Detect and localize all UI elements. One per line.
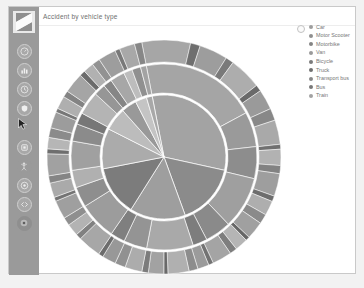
layers-icon [17, 140, 32, 155]
legend-label: Motorbike [316, 42, 340, 47]
sidebar-item-people[interactable] [14, 156, 34, 176]
sidebar-item-code[interactable] [14, 194, 34, 214]
code-icon [17, 197, 32, 212]
target-icon [17, 178, 32, 193]
sunburst-outer-slice[interactable] [47, 154, 70, 176]
content-panel: Accident by vehicle type CarMotor Scoote… [39, 7, 355, 273]
sidebar-item-settings[interactable] [14, 213, 34, 233]
legend-item[interactable]: Motorbike [309, 40, 350, 49]
legend-label: Van [316, 50, 325, 55]
legend-label: Motor Scooter [316, 33, 350, 38]
bar-chart-icon [17, 63, 32, 78]
sidebar-item-clock[interactable] [14, 79, 34, 99]
app-window: Accident by vehicle type CarMotor Scoote… [8, 6, 356, 274]
legend-item[interactable]: Train [309, 92, 350, 101]
legend-item[interactable]: Bus [309, 83, 350, 92]
sidebar-item-target[interactable] [14, 175, 34, 195]
legend-swatch [309, 51, 313, 55]
dashboard-icon [17, 44, 32, 59]
legend-swatch [309, 85, 313, 89]
sunburst-svg[interactable] [39, 25, 301, 275]
legend-item[interactable]: Motor Scooter [309, 32, 350, 41]
clock-icon [17, 82, 32, 97]
sunburst-outer-slice[interactable] [164, 252, 168, 274]
sidebar-item-dashboard[interactable] [14, 41, 34, 61]
legend-toggle-icon[interactable] [297, 25, 305, 33]
legend-swatch [309, 60, 313, 64]
legend-swatch [309, 42, 313, 46]
sidebar-item-shield[interactable] [14, 98, 34, 118]
legend-label: Transport bus [316, 76, 349, 81]
legend-swatch [309, 94, 313, 98]
legend-label: Train [316, 93, 328, 98]
people-icon [17, 159, 32, 174]
legend-swatch [309, 25, 313, 29]
legend-label: Truck [316, 68, 329, 73]
app-logo[interactable] [13, 11, 35, 33]
sidebar-item-layers[interactable] [14, 137, 34, 157]
legend-list: CarMotor ScooterMotorbikeVanBicycleTruck… [309, 23, 350, 100]
legend-label: Car [316, 25, 325, 30]
sidebar-rail [9, 7, 39, 275]
sunburst-outer-slice[interactable] [142, 40, 191, 65]
legend-item[interactable]: Van [309, 49, 350, 58]
shield-icon [17, 101, 32, 116]
legend-item[interactable]: Transport bus [309, 75, 350, 84]
sunburst-chart[interactable] [39, 25, 301, 275]
legend-swatch [309, 68, 313, 72]
legend-item[interactable]: Truck [309, 66, 350, 75]
sunburst-outer-slice[interactable] [259, 149, 281, 165]
legend-swatch [309, 77, 313, 81]
legend-swatch [309, 34, 313, 38]
gear-icon [17, 216, 32, 231]
legend-label: Bicycle [316, 59, 333, 64]
mouse-cursor [16, 117, 30, 131]
page-title: Accident by vehicle type [43, 13, 118, 20]
screenshot-root: Accident by vehicle type CarMotor Scoote… [0, 0, 364, 288]
legend-item[interactable]: Car [309, 23, 350, 32]
legend-item[interactable]: Bicycle [309, 57, 350, 66]
legend-label: Bus [316, 85, 325, 90]
sidebar-item-bar-chart[interactable] [14, 60, 34, 80]
